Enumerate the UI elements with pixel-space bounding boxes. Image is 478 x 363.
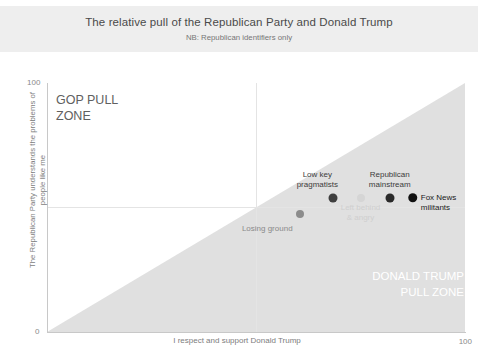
data-point-label: Low key pragmatists	[289, 170, 345, 190]
data-point	[357, 194, 365, 202]
data-point	[329, 193, 338, 202]
gop-pull-zone-label: GOP PULL ZONE	[56, 92, 118, 124]
data-point-label: Left behind & angry	[335, 203, 387, 223]
data-point-label: Losing ground	[242, 224, 304, 234]
donald-trump-pull-zone-label: DONALD TRUMP PULL ZONE	[372, 268, 464, 300]
data-point	[385, 193, 394, 202]
x-axis-line	[47, 332, 466, 333]
data-point-label: Republican mainstream	[360, 170, 420, 190]
data-point-label: Fox News militants	[421, 193, 465, 213]
chart-subtitle: NB: Republican identifiers only	[186, 33, 292, 43]
title-banner: The relative pull of the Republican Part…	[0, 6, 478, 52]
x-axis-title: I respect and support Donald Trump	[47, 336, 427, 345]
x-axis-tick-max: 100	[459, 337, 472, 346]
y-axis-title: The Republican Party understands the pro…	[28, 80, 48, 280]
data-point	[408, 193, 418, 203]
data-point	[296, 210, 304, 218]
y-axis-tick-min: 0	[35, 327, 39, 336]
gridline-horizontal-50	[47, 207, 465, 208]
page-title: The relative pull of the Republican Part…	[85, 15, 393, 29]
